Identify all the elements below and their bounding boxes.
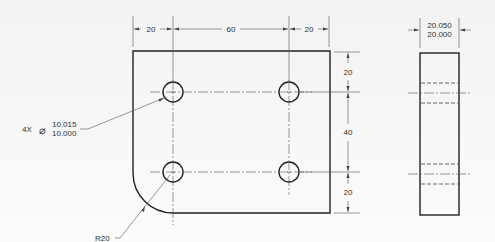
hole-diameter-lower: 10.000 — [52, 129, 77, 138]
radius-label: R20 — [95, 234, 110, 242]
dim-top-middle: 60 — [227, 25, 236, 34]
arrowhead — [347, 173, 350, 178]
dim-top-left: 20 — [147, 25, 156, 34]
arrowhead — [414, 29, 419, 32]
arrowhead — [142, 206, 146, 212]
arrowhead — [347, 166, 350, 171]
hole-callout-leader — [80, 98, 164, 129]
diameter-symbol: ⌀ — [39, 124, 46, 136]
radius-callout-leader — [115, 175, 170, 238]
side-view-outline — [420, 53, 459, 215]
arrowhead — [347, 53, 350, 58]
hole-count: 4X — [22, 125, 32, 134]
arrowhead — [167, 28, 172, 31]
arrowhead — [347, 207, 350, 212]
thickness-lower-limit: 20.000 — [427, 30, 452, 39]
engineering-drawing: 20 60 20 20 40 20 4X ⌀ 10.015 10.000 R20… — [0, 0, 495, 242]
arrowhead — [159, 98, 165, 102]
arrowhead — [323, 28, 328, 31]
arrowhead — [290, 28, 295, 31]
dim-top-right: 20 — [305, 25, 314, 34]
hole-diameter-upper: 10.015 — [52, 120, 77, 129]
thickness-upper-limit: 20.050 — [427, 21, 452, 30]
front-view-outline — [133, 51, 330, 213]
arrowhead — [283, 28, 288, 31]
arrowhead — [347, 86, 350, 91]
dim-right-middle: 40 — [344, 128, 353, 137]
arrowhead — [174, 28, 179, 31]
arrowhead — [134, 28, 139, 31]
arrowhead — [460, 29, 465, 32]
arrowhead — [347, 93, 350, 98]
dim-right-bottom: 20 — [344, 188, 353, 197]
dim-right-top: 20 — [344, 68, 353, 77]
